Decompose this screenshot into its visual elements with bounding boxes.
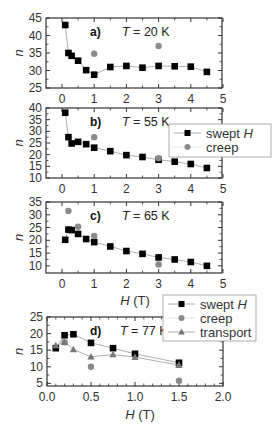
y-axis-title: n — [11, 348, 26, 355]
data-point — [83, 141, 90, 148]
panel-c: 012345101520253035nc)T = 65 K — [11, 195, 227, 291]
data-point — [204, 165, 211, 172]
panel-a: 0123452530354045na)T = 20 K — [11, 11, 227, 106]
data-point — [62, 109, 69, 116]
series-creep — [61, 339, 182, 384]
legend-circle-icon — [179, 315, 185, 321]
data-point — [62, 236, 69, 243]
data-point — [88, 364, 94, 370]
data-point — [61, 332, 68, 339]
data-point — [70, 331, 77, 338]
temperature-label: T = 55 K — [122, 115, 170, 129]
panel-label: b) — [90, 115, 101, 129]
data-point — [91, 51, 97, 57]
data-point — [75, 224, 81, 230]
x-tick-label: 5 — [220, 92, 227, 106]
y-axis-title: n — [11, 234, 26, 241]
data-point — [68, 53, 75, 60]
x-tick-label: 5 — [220, 277, 227, 291]
x-tick-label: 1 — [91, 92, 98, 106]
x-tick-label: 0 — [59, 182, 66, 196]
y-tick-label: 20 — [30, 327, 44, 341]
y-tick-label: 30 — [29, 64, 43, 78]
data-point — [171, 158, 178, 165]
x-tick-label: 0 — [59, 92, 66, 106]
data-point — [171, 256, 178, 263]
y-tick-label: 15 — [29, 246, 43, 260]
y-axis-title: n — [11, 139, 26, 146]
data-point — [65, 208, 71, 214]
panel-label: c) — [90, 209, 101, 223]
data-point — [107, 148, 114, 155]
data-point — [188, 63, 195, 70]
data-point — [155, 261, 161, 267]
y-tick-label: 5 — [36, 376, 43, 390]
data-point — [107, 64, 114, 71]
data-point — [155, 63, 162, 70]
data-point — [91, 134, 97, 140]
x-tick-label: 1 — [91, 182, 98, 196]
data-point — [68, 227, 75, 234]
x-tick-label: 1.5 — [171, 390, 188, 404]
series-transport — [52, 338, 182, 367]
x-tick-label: 0.0 — [39, 390, 56, 404]
y-tick-label: 30 — [29, 208, 43, 222]
data-point — [62, 22, 69, 29]
legend: swept Hcreeptransport — [163, 295, 256, 341]
x-axis-title: H (T) — [120, 293, 150, 308]
data-point — [107, 243, 114, 250]
y-tick-label: 25 — [30, 310, 44, 324]
data-point — [155, 155, 161, 161]
data-point — [171, 63, 178, 70]
y-tick-label: 20 — [29, 233, 43, 247]
y-tick-label: 15 — [30, 343, 44, 357]
data-point — [188, 259, 195, 266]
data-point — [75, 57, 82, 64]
data-point — [83, 67, 90, 74]
x-tick-label: 3 — [155, 182, 162, 196]
legend-label: transport — [200, 325, 252, 340]
data-point — [75, 139, 82, 146]
legend-label: swept H — [200, 297, 248, 312]
data-point — [204, 69, 211, 76]
x-tick-label: 3 — [155, 277, 162, 291]
y-tick-label: 45 — [29, 11, 43, 25]
data-point — [155, 254, 162, 261]
legend-square-icon — [179, 301, 185, 307]
y-tick-label: 35 — [29, 195, 43, 209]
x-tick-label: 2 — [123, 182, 130, 196]
legend-circle-icon — [185, 144, 191, 150]
data-point — [123, 248, 130, 255]
y-tick-label: 10 — [30, 360, 44, 374]
y-axis-title: n — [11, 49, 26, 56]
y-tick-label: 25 — [29, 81, 43, 95]
x-tick-label: 4 — [187, 277, 194, 291]
y-tick-label: 25 — [29, 221, 43, 235]
series-creep — [91, 43, 162, 57]
legend: swept Hcreep — [169, 124, 271, 157]
y-tick-label: 35 — [29, 46, 43, 60]
x-tick-label: 4 — [187, 182, 194, 196]
legend-label: creep — [200, 311, 233, 326]
data-point — [88, 340, 95, 347]
data-point — [91, 71, 98, 78]
x-tick-label: 5 — [220, 182, 227, 196]
legend-square-icon — [185, 130, 191, 136]
data-point — [65, 134, 72, 141]
data-point — [188, 161, 195, 168]
x-tick-label: 2.0 — [215, 390, 232, 404]
x-tick-label: 0.5 — [83, 390, 100, 404]
data-point — [83, 236, 90, 243]
panel-label: d) — [90, 324, 101, 338]
series-swept-h — [62, 226, 210, 269]
data-point — [139, 154, 146, 161]
data-point — [91, 239, 98, 246]
data-point — [139, 64, 146, 71]
x-tick-label: 2 — [123, 92, 130, 106]
legend-label: swept H — [206, 126, 254, 141]
data-point — [75, 231, 82, 238]
x-tick-label: 3 — [155, 92, 162, 106]
x-axis-title: H (T) — [125, 407, 155, 422]
y-tick-label: 40 — [29, 101, 43, 115]
data-point — [91, 233, 97, 239]
